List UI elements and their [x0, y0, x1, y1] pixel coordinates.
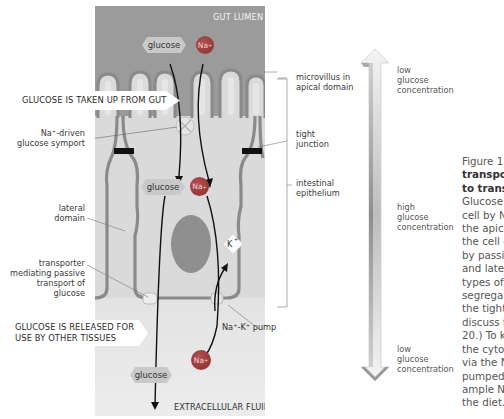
bottom-low-concentration-label: low glucose concentration — [397, 344, 454, 374]
na-k-pump-label: Na⁺-K⁺ pump — [222, 322, 276, 332]
caption-title-line2: to transf — [462, 182, 504, 195]
epithelium-label: intestinal epithelium — [296, 178, 340, 198]
tight-junction-label: tight junction — [296, 129, 329, 149]
caption-figure-number: Figure 1 — [462, 155, 504, 168]
top-low-concentration-label: low glucose concentration — [397, 65, 454, 95]
concentration-gradient-arrow — [355, 45, 395, 385]
caption-title-line1: transpor — [462, 168, 504, 181]
microvillus-label: microvillus in apical domain — [296, 72, 354, 92]
high-concentration-label: high glucose concentration — [397, 202, 454, 232]
figure-caption: Figure 1 transpor to transf Glucose cell… — [462, 155, 504, 410]
